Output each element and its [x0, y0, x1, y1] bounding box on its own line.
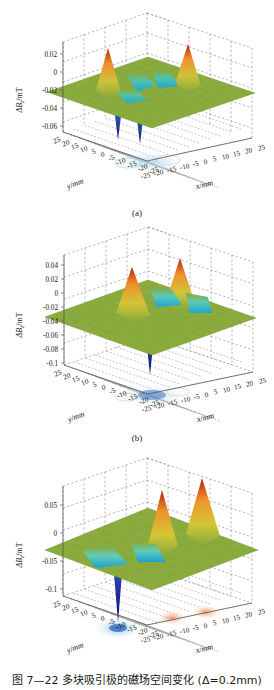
- y-tick-label: 0: [99, 150, 106, 159]
- y-axis-label: y/mm: [64, 176, 85, 191]
- panel-a: 0.02 0 -0.02 -0.04 -0.06 ΔBz/mT 25 20 15…: [0, 0, 274, 225]
- z-tick-label: -0.08: [43, 346, 58, 354]
- y-axis-label: y/mm: [64, 640, 85, 655]
- z-tick-label: -0.02: [43, 304, 58, 312]
- x-tick-label: 0: [204, 391, 210, 400]
- x-tick-label: 20: [244, 610, 253, 620]
- z-tick-label: -0.04: [43, 318, 58, 326]
- panel-c: 0.05 0 -0.05 -0.1 ΔBz/mT 25 20 15 10 5 0…: [0, 450, 274, 690]
- panel-a-plot: 0.02 0 -0.02 -0.04 -0.06 ΔBz/mT 25 20 15…: [0, 0, 274, 225]
- z-tick-label: 0.02: [44, 51, 57, 59]
- z-tick-label: -0.02: [42, 87, 57, 95]
- surface-base-plane: [47, 57, 255, 128]
- z-tick-label: 0: [53, 530, 57, 538]
- x-tick-label: -20: [153, 632, 165, 642]
- z-axis-label: ΔBz/mT: [15, 542, 25, 568]
- z-tick-label: 0.02: [45, 276, 58, 284]
- x-tick-label: 10: [222, 385, 231, 395]
- x-tick-label: 5: [213, 388, 219, 397]
- contour-projection: [190, 604, 222, 620]
- panel-a-label: (a): [0, 208, 274, 218]
- panel-b: 0.04 0.02 0 -0.02 -0.04 -0.06 -0.08 -0.1…: [0, 225, 274, 450]
- y-tick-label: 5: [90, 147, 97, 156]
- y-tick-label: 0: [100, 383, 107, 392]
- panel-b-plot: 0.04 0.02 0 -0.02 -0.04 -0.06 -0.08 -0.1…: [0, 225, 274, 450]
- surface-trough: [186, 293, 212, 313]
- x-tick-label: 0: [203, 622, 209, 631]
- z-tick-label: -0.05: [42, 558, 57, 566]
- z-tick-label: -0.04: [42, 105, 57, 113]
- y-axis-label: y/mm: [65, 409, 86, 424]
- y-tick-label: 5: [90, 611, 97, 620]
- y-tick-label: 10: [79, 144, 89, 154]
- x-tick-label: 25: [257, 607, 266, 617]
- x-tick-label: 20: [244, 146, 253, 156]
- x-tick-label: 15: [232, 149, 241, 159]
- x-tick-label: -10: [179, 626, 191, 636]
- x-tick-label: 5: [212, 619, 218, 628]
- z-tick-label: 0: [53, 69, 57, 77]
- x-tick-label: 0: [203, 158, 209, 167]
- x-axis-label: x/mm: [194, 642, 214, 655]
- y-tick-label: 10: [79, 608, 89, 618]
- x-tick-label: 15: [233, 382, 242, 392]
- x-tick-label: 10: [221, 616, 230, 626]
- figure-caption: 图 7—22 多块吸引极的磁场空间变化 (Δ=0.2mm): [0, 674, 274, 688]
- z-axis-label: ΔBz/mT: [15, 312, 25, 338]
- y-tick-label: 10: [80, 377, 90, 387]
- x-tick-label: 5: [212, 155, 218, 164]
- z-tick-label: 0.04: [45, 262, 58, 270]
- x-tick-label: 10: [221, 152, 230, 162]
- x-tick-label: -5: [192, 623, 200, 632]
- x-tick-label: 20: [245, 379, 254, 389]
- contour-projection: [156, 610, 188, 626]
- surface-base-plane: [45, 280, 256, 355]
- y-tick-label: 5: [91, 380, 98, 389]
- z-axis-label: ΔBz/mT: [15, 87, 25, 113]
- x-axis-label: x/mm: [194, 178, 214, 191]
- x-tick-label: -15: [166, 629, 178, 639]
- z-tick-label: -0.06: [42, 123, 57, 131]
- x-tick-label: 25: [258, 376, 267, 386]
- z-tick-label: 0.05: [44, 502, 57, 510]
- z-tick-label: -0.06: [43, 332, 58, 340]
- panel-b-label: (b): [0, 433, 274, 443]
- figure-3d-surface-series: 0.02 0 -0.02 -0.04 -0.06 ΔBz/mT 25 20 15…: [0, 0, 274, 690]
- x-tick-label: 15: [232, 613, 241, 623]
- x-tick-label: 25: [257, 143, 266, 153]
- x-axis-label: x/mm: [195, 411, 215, 424]
- z-tick-label: -0.1: [47, 360, 59, 368]
- z-tick-label: 0: [54, 290, 58, 298]
- panel-c-plot: 0.05 0 -0.05 -0.1 ΔBz/mT 25 20 15 10 5 0…: [0, 450, 274, 690]
- z-tick-label: -0.1: [46, 586, 58, 594]
- x-tick-label: -5: [193, 392, 201, 401]
- x-tick-label: -5: [192, 159, 200, 168]
- surface-peak: [186, 478, 220, 546]
